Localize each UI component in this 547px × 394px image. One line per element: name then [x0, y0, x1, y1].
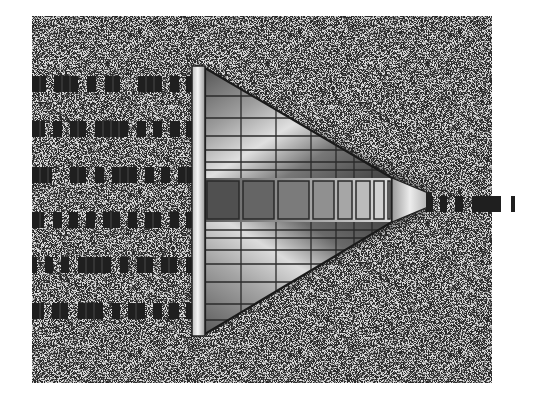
data-pulse	[103, 212, 120, 228]
data-pulse	[153, 303, 162, 319]
data-pulse	[186, 76, 192, 92]
data-pulse	[95, 121, 128, 137]
diagram-canvas	[0, 0, 547, 394]
data-pulse	[32, 121, 45, 137]
data-pulse	[54, 76, 78, 92]
data-pulse	[32, 303, 44, 319]
input-face-bar	[192, 66, 205, 336]
center-band-cells	[207, 181, 390, 219]
data-pulse	[186, 303, 192, 319]
data-pulse	[170, 121, 180, 137]
data-pulse	[61, 257, 69, 273]
band-cell	[278, 181, 309, 219]
data-pulse	[105, 76, 120, 92]
band-cell	[388, 181, 390, 219]
data-pulse	[32, 257, 37, 273]
data-pulse	[178, 167, 192, 183]
data-pulse	[112, 167, 137, 183]
data-pulse	[145, 167, 154, 183]
data-pulse	[45, 257, 53, 273]
data-pulse	[69, 212, 78, 228]
band-cell	[243, 181, 274, 219]
data-pulse	[138, 76, 162, 92]
data-pulse	[426, 196, 433, 212]
data-pulse	[32, 167, 52, 183]
data-pulse	[472, 196, 501, 212]
data-pulse	[170, 212, 179, 228]
data-pulse	[153, 121, 162, 137]
band-cell	[338, 181, 352, 219]
data-pulse	[128, 303, 145, 319]
data-pulse	[137, 121, 146, 137]
band-cell	[356, 181, 370, 219]
data-pulse	[78, 303, 103, 319]
band-cell	[313, 181, 334, 219]
data-pulse	[120, 257, 128, 273]
data-pulse	[186, 212, 192, 228]
data-pulse	[95, 167, 104, 183]
data-pulse	[128, 212, 137, 228]
data-pulse	[161, 167, 170, 183]
data-pulse	[78, 257, 111, 273]
data-pulse	[170, 76, 179, 92]
optical-taper-diagram	[0, 0, 547, 394]
data-pulse	[186, 257, 192, 273]
data-pulse	[169, 303, 179, 319]
data-pulse	[511, 196, 515, 212]
data-pulse	[32, 212, 44, 228]
data-pulse	[440, 196, 447, 212]
data-pulse	[32, 76, 46, 92]
data-pulse	[53, 121, 62, 137]
band-cell	[374, 181, 384, 219]
data-pulse	[87, 76, 96, 92]
band-cell	[207, 181, 239, 219]
data-pulse	[455, 196, 463, 212]
data-pulse	[53, 212, 62, 228]
data-pulse	[112, 303, 120, 319]
data-pulse	[186, 121, 192, 137]
data-pulse	[86, 212, 95, 228]
